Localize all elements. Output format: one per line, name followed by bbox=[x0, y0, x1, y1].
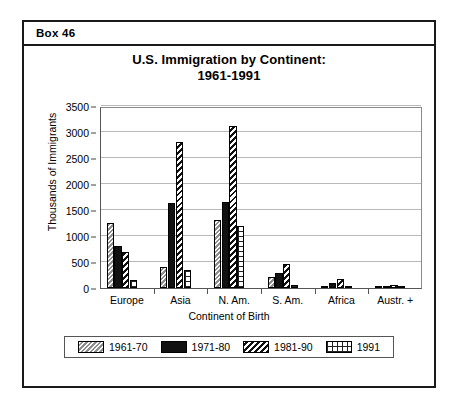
x-axis-category-label: Africa bbox=[328, 294, 355, 306]
legend-entry: 1961-70 bbox=[78, 341, 148, 353]
bar-group bbox=[321, 108, 352, 288]
y-axis-tick-mark bbox=[91, 211, 96, 212]
bar-group bbox=[107, 108, 138, 288]
bar bbox=[122, 252, 129, 288]
bar bbox=[283, 264, 290, 288]
y-axis-tick-label: 2500 bbox=[66, 153, 89, 165]
legend-entry: 1981-90 bbox=[243, 341, 313, 353]
y-axis-tick-mark bbox=[91, 185, 96, 186]
bar bbox=[268, 277, 275, 288]
legend-label: 1961-70 bbox=[109, 341, 148, 353]
legend-swatch bbox=[78, 341, 104, 353]
legend-entry: 1991 bbox=[326, 341, 380, 353]
x-axis-title: Continent of Birth bbox=[24, 310, 434, 322]
plot-area bbox=[100, 107, 422, 289]
chart-title-line2: 1961-1991 bbox=[24, 68, 434, 84]
x-axis-category-label: N. Am. bbox=[218, 294, 250, 306]
y-axis-tick-mark bbox=[91, 159, 96, 160]
x-axis-category-label: Asia bbox=[170, 294, 190, 306]
bar bbox=[222, 202, 229, 288]
bar-group bbox=[214, 108, 245, 288]
bar bbox=[390, 285, 397, 288]
bar bbox=[114, 246, 121, 288]
bar bbox=[329, 283, 336, 288]
bar bbox=[130, 280, 137, 288]
bar bbox=[337, 279, 344, 288]
legend-entry: 1971-80 bbox=[161, 341, 231, 353]
box-number-label: Box 46 bbox=[36, 27, 76, 39]
chart-legend: 1961-701971-801981-901991 bbox=[64, 336, 394, 358]
y-axis-tick-label: 0 bbox=[83, 283, 89, 295]
y-axis-tick-mark bbox=[91, 237, 96, 238]
y-axis-tick-label: 500 bbox=[71, 257, 89, 269]
bar bbox=[345, 286, 352, 288]
legend-label: 1981-90 bbox=[274, 341, 313, 353]
bar-group bbox=[375, 108, 406, 288]
bar bbox=[398, 286, 405, 288]
y-axis-tick-mark bbox=[91, 289, 96, 290]
bar bbox=[383, 286, 390, 288]
x-axis-category-label: Austr. + bbox=[377, 294, 413, 306]
y-axis-tick-label: 3500 bbox=[66, 101, 89, 113]
bar bbox=[275, 273, 282, 288]
box-frame: Box 46 U.S. Immigration by Continent: 19… bbox=[22, 20, 436, 388]
x-axis-category-label: S. Am. bbox=[272, 294, 303, 306]
x-axis-category-labels: EuropeAsiaN. Am.S. Am.AfricaAustr. + bbox=[100, 294, 422, 310]
x-axis-category-label: Europe bbox=[110, 294, 144, 306]
bar-group bbox=[160, 108, 191, 288]
legend-swatch bbox=[243, 341, 269, 353]
bar bbox=[168, 203, 175, 288]
y-axis-tick-label: 3000 bbox=[66, 127, 89, 139]
y-axis-tick-label: 1000 bbox=[66, 231, 89, 243]
legend-label: 1991 bbox=[357, 341, 380, 353]
gridline bbox=[101, 105, 421, 106]
legend-label: 1971-80 bbox=[192, 341, 231, 353]
bar bbox=[321, 286, 328, 288]
legend-swatch bbox=[161, 341, 187, 353]
bar bbox=[229, 126, 236, 288]
y-axis-tick-label: 1500 bbox=[66, 205, 89, 217]
chart-container: U.S. Immigration by Continent: 1961-1991… bbox=[24, 46, 434, 388]
bar-series-container bbox=[101, 108, 421, 288]
chart-title-line1: U.S. Immigration by Continent: bbox=[132, 52, 326, 67]
bar-group bbox=[268, 108, 299, 288]
y-axis-tick-labels: 0500100015002000250030003500 bbox=[24, 107, 96, 289]
bar bbox=[176, 142, 183, 288]
bar bbox=[214, 220, 221, 288]
y-axis-tick-label: 2000 bbox=[66, 179, 89, 191]
bar bbox=[107, 223, 114, 288]
bar bbox=[375, 286, 382, 288]
y-axis-tick-mark bbox=[91, 133, 96, 134]
bar bbox=[291, 285, 298, 288]
y-axis-tick-mark bbox=[91, 107, 96, 108]
bar bbox=[160, 267, 167, 288]
y-axis-tick-mark bbox=[91, 263, 96, 264]
box-header: Box 46 bbox=[24, 22, 434, 46]
bar bbox=[237, 226, 244, 288]
chart-title: U.S. Immigration by Continent: 1961-1991 bbox=[24, 52, 434, 84]
legend-swatch bbox=[326, 341, 352, 353]
bar bbox=[184, 270, 191, 288]
